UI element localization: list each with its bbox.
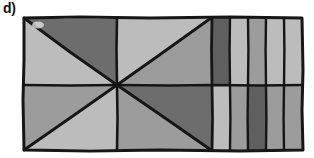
stripe-top-3 xyxy=(248,18,266,85)
stripe-top-4 xyxy=(266,18,284,85)
stripe-bottom-2 xyxy=(230,85,248,150)
paper-highlight-artifact xyxy=(32,22,44,29)
stripe-top-1 xyxy=(212,18,230,85)
stripe-top-2 xyxy=(230,18,248,85)
divider-mid-stripes xyxy=(212,18,213,150)
stripe-bottom-3 xyxy=(248,85,266,150)
stripes-top-group xyxy=(212,18,302,85)
figure-container: d) xyxy=(0,0,314,158)
stripe-bottom-5 xyxy=(284,85,302,150)
stripe-top-5 xyxy=(284,18,302,85)
partition-diagram xyxy=(0,0,314,158)
stripes-bottom-group xyxy=(212,85,302,150)
stripe-bottom-1 xyxy=(212,85,230,150)
stripe-bottom-4 xyxy=(266,85,284,150)
horizontal-midline xyxy=(24,85,302,86)
